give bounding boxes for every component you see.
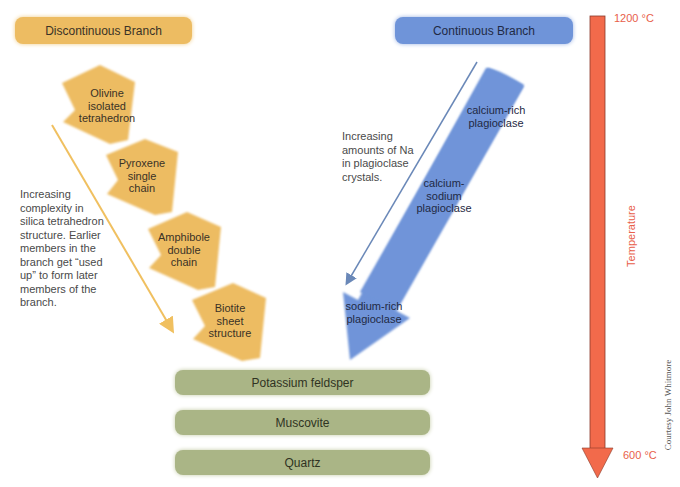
note-line: branch. bbox=[20, 296, 130, 310]
note-line: up” to form later bbox=[20, 269, 130, 283]
stage-line: plagioclase bbox=[341, 313, 407, 326]
quartz-bar: Quartz bbox=[175, 450, 430, 475]
pyroxene-name: Pyroxene bbox=[112, 157, 172, 170]
quartz-label: Quartz bbox=[284, 456, 320, 470]
note-line: in plagioclase bbox=[342, 157, 432, 171]
continuous-note: Increasing amounts of Na in plagioclase … bbox=[342, 130, 432, 184]
image-credit: Courtesy John Whitmore bbox=[663, 345, 673, 465]
note-line: Increasing bbox=[20, 188, 130, 202]
olivine-line2: isolated bbox=[74, 100, 140, 113]
continuous-branch-header: Continuous Branch bbox=[395, 17, 573, 44]
note-line: complexity in bbox=[20, 202, 130, 216]
olivine-name: Olivine bbox=[74, 87, 140, 100]
note-line: amounts of Na bbox=[342, 144, 432, 158]
olivine-label: Olivine isolated tetrahedron bbox=[74, 87, 140, 125]
olivine-line3: tetrahedron bbox=[74, 112, 140, 125]
amphibole-name: Amphibole bbox=[153, 231, 215, 244]
stage-line: calcium-rich bbox=[463, 104, 529, 117]
temperature-axis-label: Temperature bbox=[625, 191, 637, 281]
continuous-branch-title: Continuous Branch bbox=[433, 24, 535, 38]
temperature-bar bbox=[590, 16, 605, 451]
discontinuous-branch-title: Discontinuous Branch bbox=[45, 24, 162, 38]
potassium-feldspar-label: Potassium feldsper bbox=[251, 376, 353, 390]
note-line: structure. Earlier bbox=[20, 229, 130, 243]
note-line: silica tetrahedron bbox=[20, 215, 130, 229]
temperature-bottom-label: 600 °C bbox=[623, 449, 657, 461]
note-line: Increasing bbox=[342, 130, 432, 144]
discontinuous-branch-header: Discontinuous Branch bbox=[15, 17, 192, 44]
discontinuous-note: Increasing complexity in silica tetrahed… bbox=[20, 188, 130, 310]
temperature-top-label: 1200 °C bbox=[614, 12, 654, 24]
stage-line: sodium-rich bbox=[341, 300, 407, 313]
note-line: branch get “used bbox=[20, 256, 130, 270]
muscovite-label: Muscovite bbox=[275, 416, 329, 430]
biotite-line2: sheet bbox=[200, 315, 260, 328]
biotite-name: Biotite bbox=[200, 302, 260, 315]
stage-line: plagioclase bbox=[463, 117, 529, 130]
note-line: members of the bbox=[20, 283, 130, 297]
amphibole-line2: double bbox=[153, 244, 215, 257]
amphibole-line3: chain bbox=[153, 256, 215, 269]
temperature-arrowhead-icon bbox=[582, 448, 613, 478]
note-line: crystals. bbox=[342, 171, 432, 185]
sodium-rich-label: sodium-rich plagioclase bbox=[341, 300, 407, 325]
pyroxene-line2: single bbox=[112, 170, 172, 183]
amphibole-label: Amphibole double chain bbox=[153, 231, 215, 269]
note-line: members in the bbox=[20, 242, 130, 256]
biotite-label: Biotite sheet structure bbox=[200, 302, 260, 340]
potassium-feldspar-bar: Potassium feldsper bbox=[175, 370, 430, 395]
biotite-line3: structure bbox=[200, 327, 260, 340]
stage-line: plagioclase bbox=[414, 202, 474, 215]
stage-line: sodium bbox=[414, 190, 474, 203]
muscovite-bar: Muscovite bbox=[175, 410, 430, 435]
calcium-rich-label: calcium-rich plagioclase bbox=[463, 104, 529, 129]
